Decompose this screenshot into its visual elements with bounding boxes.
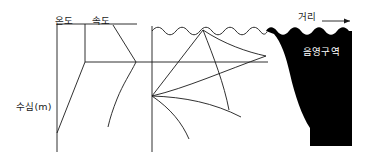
temperature-profile-curve xyxy=(57,24,85,133)
ray-downward-refracted-steep xyxy=(152,96,189,139)
distance-axis-label: 거리 xyxy=(298,12,316,22)
ray-surface-refracted-right xyxy=(203,30,266,56)
temperature-axis-label: 온도 xyxy=(55,16,73,26)
shadow-zone-diagram: 온도 속도 수심(m) 거리 음영구역 xyxy=(0,0,366,164)
depth-axis-label: 수심(m) xyxy=(16,102,52,112)
velocity-profile-curve xyxy=(108,25,136,127)
ray-upward-to-surface xyxy=(152,30,203,96)
velocity-axis-label: 속도 xyxy=(92,16,110,26)
ray-paths xyxy=(152,30,266,139)
right-arrow-icon xyxy=(322,18,350,23)
shadow-zone-label: 음영구역 xyxy=(303,47,340,57)
